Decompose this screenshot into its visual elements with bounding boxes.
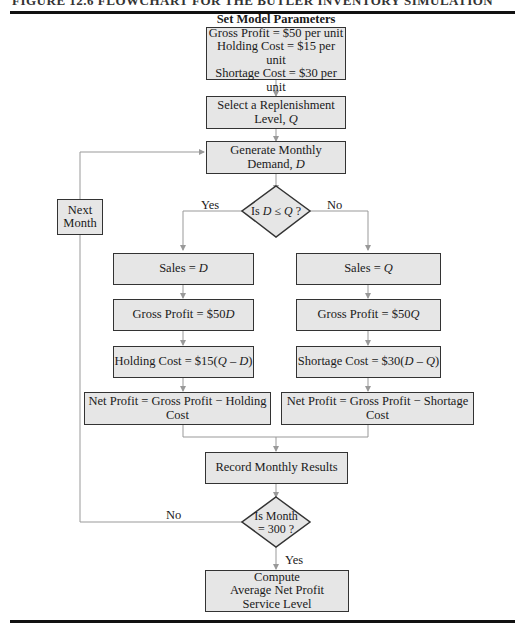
params-shortage-cost: Shortage Cost = $30 per unit xyxy=(207,67,345,94)
var-q: Q xyxy=(289,112,298,126)
generate-line1: Generate Monthly xyxy=(230,144,321,158)
generate-demand-box: Generate Monthly Demand, D xyxy=(206,141,346,174)
left-sales-var: D xyxy=(199,261,208,275)
connector-lines xyxy=(0,0,530,630)
left-gross-text: Gross Profit = $50D xyxy=(133,308,235,322)
shortage-prefix: Shortage Cost = $30( xyxy=(298,354,405,368)
record-results-box: Record Monthly Results xyxy=(205,452,348,484)
decision-d-le-q-text: Is D ≤ Q ? xyxy=(246,205,306,218)
right-gross-var: Q xyxy=(410,307,419,321)
shortage-op: – xyxy=(414,354,427,368)
select-replenishment-box: Select a Replenishment Level, Q xyxy=(206,96,346,129)
left-gross-profit-box: Gross Profit = $50D xyxy=(113,299,254,331)
compute-line3: Service Level xyxy=(242,598,311,612)
holding-op: – xyxy=(227,354,240,368)
compute-results-box: Compute Average Net Profit Service Level xyxy=(205,570,349,612)
next-month-line2: Month xyxy=(63,217,96,231)
next-month-line1: Next xyxy=(68,204,92,218)
decision1-no-label: No xyxy=(327,198,342,213)
right-sales-text: Sales = Q xyxy=(344,262,393,276)
params-gross-profit: Gross Profit = $50 per unit xyxy=(209,27,343,41)
d2-line1: Is Month xyxy=(246,510,306,523)
left-net-text: Net Profit = Gross Profit − Holding Cost xyxy=(85,395,270,422)
right-sales-prefix: Sales = xyxy=(344,261,384,275)
d1-prefix: Is xyxy=(251,204,263,218)
right-sales-var: Q xyxy=(384,261,393,275)
var-d: D xyxy=(296,157,305,171)
params-title: Set Model Parameters xyxy=(217,13,336,27)
right-net-profit-box: Net Profit = Gross Profit − Shortage Cos… xyxy=(281,392,474,425)
holding-cost-box: Holding Cost = $15(Q – D) xyxy=(113,346,254,378)
set-model-parameters-box: Set Model Parameters Gross Profit = $50 … xyxy=(206,27,346,80)
right-sales-box: Sales = Q xyxy=(296,253,441,285)
select-line2-text: Level, xyxy=(254,112,289,126)
shortage-suffix: ) xyxy=(435,354,439,368)
holding-var-d: D xyxy=(239,354,248,368)
record-text: Record Monthly Results xyxy=(215,461,337,475)
left-net-profit-box: Net Profit = Gross Profit − Holding Cost xyxy=(84,392,271,425)
select-line1: Select a Replenishment xyxy=(217,99,334,113)
left-sales-box: Sales = D xyxy=(113,253,254,285)
shortage-cost-text: Shortage Cost = $30(D – Q) xyxy=(298,355,439,369)
holding-var-q: Q xyxy=(218,354,227,368)
compute-line2: Average Net Profit xyxy=(230,584,324,598)
right-net-text: Net Profit = Gross Profit − Shortage Cos… xyxy=(282,395,473,422)
shortage-var-q: Q xyxy=(426,354,435,368)
next-month-box: Next Month xyxy=(57,199,103,235)
left-sales-text: Sales = D xyxy=(159,262,208,276)
holding-cost-text: Holding Cost = $15(Q – D) xyxy=(115,355,253,369)
left-gross-var: D xyxy=(225,307,234,321)
bottom-rule xyxy=(10,620,515,623)
d1-op: ≤ xyxy=(271,204,284,218)
decision-month-300-text: Is Month = 300 ? xyxy=(246,510,306,535)
left-sales-prefix: Sales = xyxy=(159,261,199,275)
right-gross-text: Gross Profit = $50Q xyxy=(318,308,420,322)
d1-var-q: Q xyxy=(284,204,293,218)
generate-line2-text: Demand, xyxy=(247,157,296,171)
generate-line2: Demand, D xyxy=(247,158,305,172)
select-line2: Level, Q xyxy=(254,113,298,127)
shortage-var-d: D xyxy=(404,354,413,368)
compute-line1: Compute xyxy=(254,571,300,585)
d1-suffix: ? xyxy=(293,204,301,218)
right-gross-prefix: Gross Profit = $50 xyxy=(318,307,411,321)
shortage-cost-box: Shortage Cost = $30(D – Q) xyxy=(296,346,441,378)
decision1-yes-label: Yes xyxy=(201,198,219,213)
d2-line2: = 300 ? xyxy=(246,523,306,536)
decision2-no-label: No xyxy=(166,508,181,523)
right-gross-profit-box: Gross Profit = $50Q xyxy=(296,299,441,331)
holding-suffix: ) xyxy=(248,354,252,368)
holding-prefix: Holding Cost = $15( xyxy=(115,354,218,368)
decision2-yes-label: Yes xyxy=(285,553,303,568)
params-holding-cost: Holding Cost = $15 per unit xyxy=(207,40,345,67)
left-gross-prefix: Gross Profit = $50 xyxy=(133,307,226,321)
